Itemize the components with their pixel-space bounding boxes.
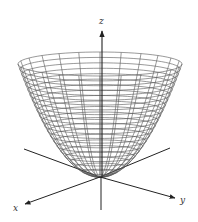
paraboloid-figure: z x y	[0, 0, 198, 222]
front-axes	[25, 177, 175, 210]
z-axis-label: z	[98, 16, 104, 26]
x-axis	[25, 177, 100, 204]
mesh-meridian	[79, 76, 100, 178]
y-axis	[100, 177, 175, 198]
paraboloid-mesh	[18, 52, 182, 177]
x-axis-label: x	[13, 203, 18, 213]
y-axis-label: y	[179, 195, 186, 205]
mesh-meridian	[100, 76, 121, 178]
